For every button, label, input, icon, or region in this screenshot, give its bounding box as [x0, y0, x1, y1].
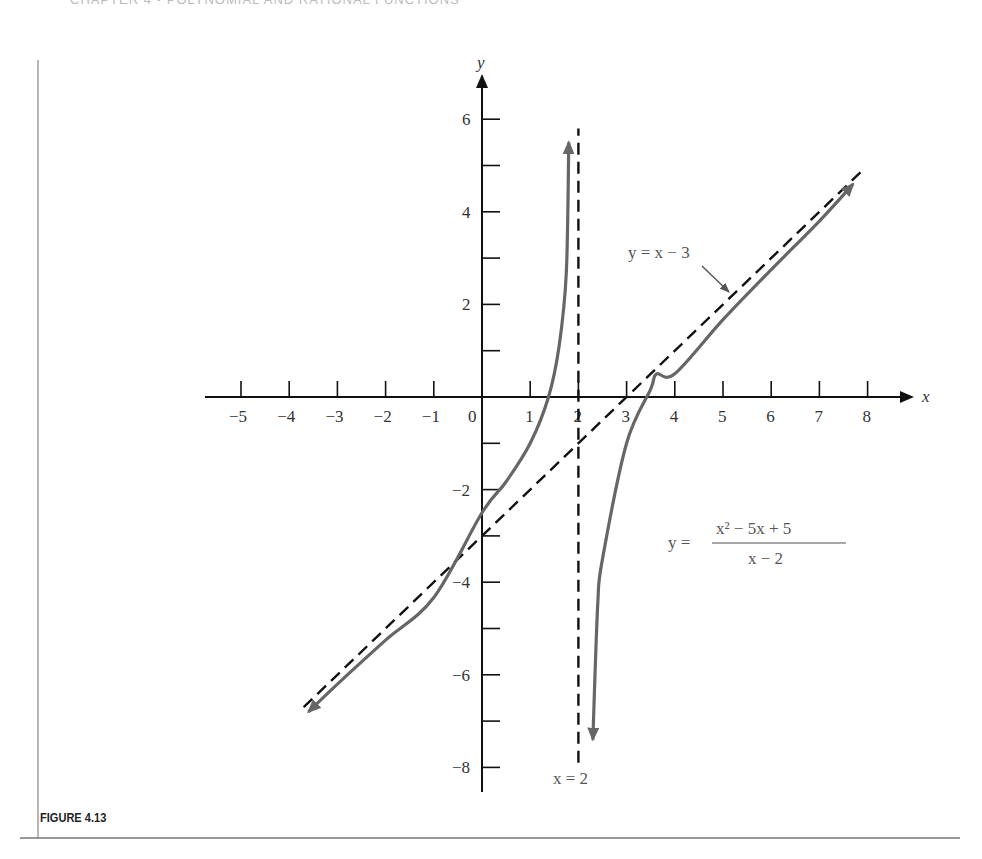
- ticks: −5−4−3−2−1012345678−8−6−4−2246: [229, 110, 871, 777]
- function-curve-branch: [593, 184, 853, 740]
- annotations: y = x − 3x = 2y =x² − 5x + 5x − 2: [553, 243, 846, 788]
- x-axis-label: x: [921, 387, 930, 406]
- x-tick-label: 3: [622, 407, 631, 426]
- function-label-denominator: x − 2: [748, 549, 783, 568]
- y-tick-label: −4: [452, 573, 471, 592]
- asymptotes: [304, 128, 863, 762]
- y-tick-label: 6: [462, 110, 471, 129]
- y-tick-label: −8: [452, 758, 470, 777]
- x-tick-label: 5: [718, 407, 727, 426]
- figure-caption: FIGURE 4.13: [40, 810, 106, 825]
- function-curve-branch: [308, 142, 568, 711]
- slant-label-pointer: [702, 266, 729, 292]
- asymptote-line: [304, 170, 863, 707]
- slant-asymptote-label: y = x − 3: [628, 243, 690, 262]
- x-tick-label: −1: [422, 407, 440, 426]
- x-tick-label: −3: [325, 407, 343, 426]
- x-tick-label: 6: [766, 407, 775, 426]
- y-tick-label: 4: [462, 203, 471, 222]
- x-tick-label: 8: [863, 407, 872, 426]
- y-tick-label: −2: [452, 481, 470, 500]
- y-tick-label: −6: [452, 666, 470, 685]
- x-tick-label: −4: [277, 407, 296, 426]
- y-axis-label: y: [475, 53, 485, 72]
- x-tick-label: 4: [670, 407, 679, 426]
- function-label-numerator: x² − 5x + 5: [716, 519, 791, 538]
- chart-figure: xy −5−4−3−2−1012345678−8−6−4−2246 y = x …: [0, 0, 982, 859]
- vertical-asymptote-label: x = 2: [553, 769, 588, 788]
- x-tick-label: 7: [814, 407, 823, 426]
- y-tick-label: 2: [462, 295, 471, 314]
- x-tick-label: 1: [525, 407, 534, 426]
- x-tick-label: −5: [229, 407, 247, 426]
- function-label-prefix: y =: [668, 533, 690, 552]
- x-tick-label: −2: [374, 407, 392, 426]
- x-tick-label: 0: [468, 407, 477, 426]
